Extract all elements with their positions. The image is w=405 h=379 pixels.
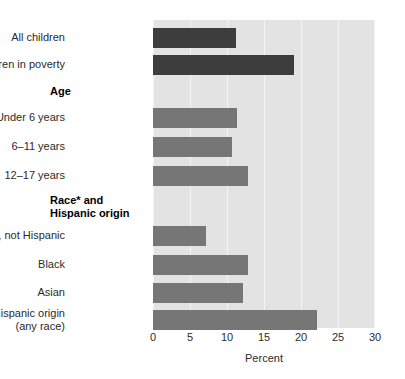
category-label-black: Black	[0, 258, 65, 271]
bar-hispanic-origin	[153, 310, 317, 330]
category-label-asian: Asian	[0, 286, 65, 299]
gridline-25	[338, 20, 339, 328]
xtick-20: 20	[286, 331, 316, 343]
bar-under-6-years	[153, 108, 237, 128]
plot-area	[153, 20, 375, 328]
bar-6-11-years	[153, 137, 232, 157]
category-label-6-11-years: 6–11 years	[0, 140, 65, 153]
category-label-under-6-years: Under 6 years	[0, 111, 65, 124]
bar-asian	[153, 283, 243, 303]
xtick-30: 30	[360, 331, 390, 343]
bar-all-children	[153, 28, 236, 48]
gridline-30	[374, 20, 375, 328]
category-label-white-not-hispanic: White, not Hispanic	[0, 229, 65, 242]
category-label-all-children: All children	[0, 31, 65, 44]
category-label-12-17-years: 12–17 years	[0, 169, 65, 182]
bar-children-in-poverty	[153, 55, 294, 75]
bar-black	[153, 255, 248, 275]
gridline-20	[301, 20, 302, 328]
category-label-children-in-poverty: Children in poverty	[0, 58, 65, 71]
group-heading-race-hispanic-origin: Race* and Hispanic origin	[50, 194, 190, 219]
xtick-10: 10	[212, 331, 242, 343]
xtick-15: 15	[249, 331, 279, 343]
x-axis-title: Percent	[153, 352, 375, 364]
category-label-hispanic-origin: Hispanic origin (any race)	[0, 307, 65, 332]
group-heading-age: Age	[50, 85, 190, 98]
xtick-25: 25	[323, 331, 353, 343]
bar-12-17-years	[153, 166, 248, 186]
bar-white-not-hispanic	[153, 226, 206, 246]
xtick-5: 5	[175, 331, 205, 343]
bar-chart: All children Children in poverty Age Und…	[0, 0, 405, 379]
xtick-0: 0	[138, 331, 168, 343]
